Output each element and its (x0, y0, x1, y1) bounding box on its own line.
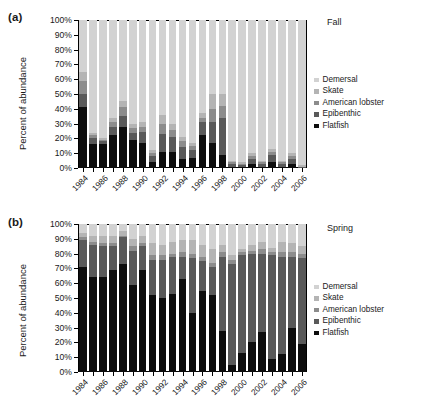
stacked-bar[interactable] (89, 224, 97, 372)
stacked-bar[interactable] (268, 20, 276, 168)
legend-item[interactable]: Epibenthic (314, 109, 384, 121)
legend-item[interactable]: Skate (314, 86, 384, 98)
stacked-bar[interactable] (79, 20, 87, 168)
bar-segment-demersal (258, 224, 266, 242)
stacked-bar[interactable] (278, 20, 286, 168)
stacked-bar[interactable] (119, 20, 127, 168)
bar-slot (287, 20, 297, 168)
x-tick-mark (252, 372, 253, 376)
stacked-bar[interactable] (228, 224, 236, 372)
stacked-bar[interactable] (278, 224, 286, 372)
stacked-bar[interactable] (79, 224, 87, 372)
stacked-bar[interactable] (258, 224, 266, 372)
stacked-bar[interactable] (288, 20, 296, 168)
bar-segment-flatfish (219, 155, 227, 168)
legend-item[interactable]: American lobster (314, 97, 384, 109)
stacked-bar[interactable] (179, 20, 187, 168)
bar-slot (138, 20, 148, 168)
bar-segment-epibenthic (119, 237, 127, 264)
bar-segment-flatfish (159, 152, 167, 168)
stacked-bar[interactable] (219, 224, 227, 372)
legend-swatch-icon (314, 331, 319, 336)
x-tick-mark (143, 372, 144, 376)
bar-slot (297, 224, 307, 372)
stacked-bar[interactable] (199, 224, 207, 372)
legend-item[interactable]: Demersal (314, 74, 384, 86)
bar-segment-epibenthic (79, 240, 87, 267)
bar-segment-epibenthic (248, 254, 256, 343)
x-tick-mark (232, 168, 233, 172)
bar-segment-demersal (248, 20, 256, 153)
y-tick-mark (74, 224, 78, 225)
stacked-bar[interactable] (209, 224, 217, 372)
legend-item[interactable]: Epibenthic (314, 316, 384, 328)
bar-slot (168, 20, 178, 168)
stacked-bar[interactable] (189, 224, 197, 372)
stacked-bar[interactable] (238, 224, 246, 372)
y-tick-mark (74, 168, 78, 169)
stacked-bar[interactable] (248, 224, 256, 372)
legend-item[interactable]: Demersal (314, 281, 384, 293)
bar-segment-american-lobster (159, 124, 167, 134)
stacked-bar[interactable] (99, 20, 107, 168)
legend-label: Flatfish (323, 329, 349, 337)
bar-segment-epibenthic (189, 150, 197, 157)
stacked-bar[interactable] (139, 20, 147, 168)
stacked-bar[interactable] (179, 224, 187, 372)
bar-segment-skate (199, 245, 207, 257)
panel-a-plot-area (78, 20, 307, 168)
x-tick-mark (103, 372, 104, 376)
bar-segment-skate (189, 240, 197, 253)
stacked-bar[interactable] (129, 224, 137, 372)
bar-segment-demersal (119, 20, 127, 101)
stacked-bar[interactable] (109, 20, 117, 168)
x-tick-mark (262, 372, 263, 376)
stacked-bar[interactable] (119, 224, 127, 372)
stacked-bar[interactable] (189, 20, 197, 168)
x-tick-mark (113, 168, 114, 172)
panel-a-tag: (a) (8, 11, 22, 23)
stacked-bar[interactable] (238, 20, 246, 168)
stacked-bar[interactable] (129, 20, 137, 168)
legend-label: Epibenthic (323, 110, 361, 118)
bar-slot (118, 20, 128, 168)
legend-item[interactable]: American lobster (314, 304, 384, 316)
bar-segment-epibenthic (288, 257, 296, 328)
x-tick-mark (282, 168, 283, 172)
stacked-bar[interactable] (109, 224, 117, 372)
stacked-bar[interactable] (99, 224, 107, 372)
stacked-bar[interactable] (268, 224, 276, 372)
stacked-bar[interactable] (288, 224, 296, 372)
bar-segment-flatfish (109, 270, 117, 372)
stacked-bar[interactable] (199, 20, 207, 168)
bar-segment-flatfish (119, 127, 127, 168)
bar-segment-flatfish (129, 285, 137, 372)
stacked-bar[interactable] (298, 20, 306, 168)
legend-item[interactable]: Skate (314, 293, 384, 305)
stacked-bar[interactable] (169, 224, 177, 372)
y-tick-label: 60% (55, 278, 72, 288)
stacked-bar[interactable] (258, 20, 266, 168)
stacked-bar[interactable] (159, 20, 167, 168)
legend-item[interactable]: Flatfish (314, 120, 384, 132)
stacked-bar[interactable] (209, 20, 217, 168)
bar-slot (237, 20, 247, 168)
stacked-bar[interactable] (149, 20, 157, 168)
bar-slot (247, 224, 257, 372)
stacked-bar[interactable] (298, 224, 306, 372)
stacked-bar[interactable] (159, 224, 167, 372)
stacked-bar[interactable] (219, 20, 227, 168)
figure-stacked-bar-abundance: (a) Fall Percent of abundance DemersalSk… (0, 0, 424, 409)
x-tick-mark (292, 372, 293, 376)
stacked-bar[interactable] (89, 20, 97, 168)
stacked-bar[interactable] (139, 224, 147, 372)
x-tick-mark (83, 168, 84, 172)
stacked-bar[interactable] (149, 224, 157, 372)
stacked-bar[interactable] (169, 20, 177, 168)
y-tick-label: 80% (55, 45, 72, 55)
bar-segment-demersal (189, 224, 197, 240)
stacked-bar[interactable] (248, 20, 256, 168)
legend-item[interactable]: Flatfish (314, 327, 384, 339)
y-tick-mark (74, 20, 78, 21)
stacked-bar[interactable] (228, 20, 236, 168)
